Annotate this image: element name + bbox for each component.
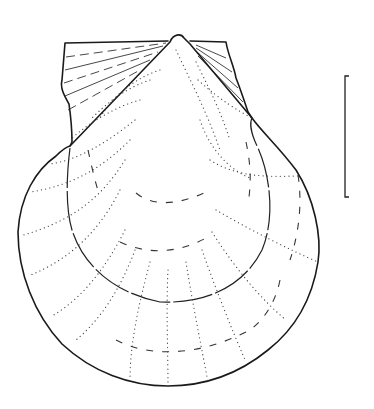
scale-bar (345, 76, 349, 197)
left-ear (61, 41, 168, 146)
shell-outline (18, 35, 319, 386)
shell-drawing (0, 0, 374, 409)
radial-ribs (20, 50, 318, 386)
shell-figure: Scallop shell (Pectinidae) valve, line d… (0, 0, 374, 409)
